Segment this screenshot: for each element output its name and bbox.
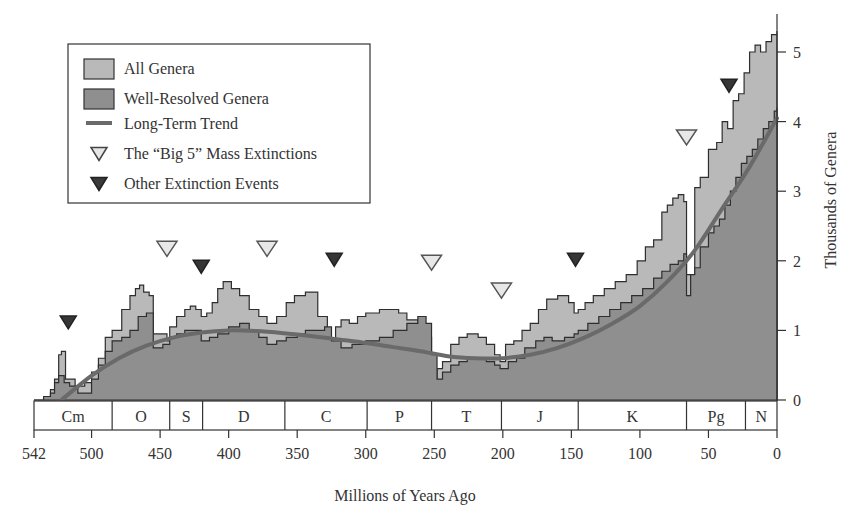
y-tick-label: 3	[793, 183, 801, 200]
period-label: Cm	[62, 408, 86, 425]
x-tick-label: 300	[354, 445, 378, 462]
x-tick-label: 400	[217, 445, 241, 462]
genera-diversity-chart: CmOSDCPTJKPgN542500450400350300250200150…	[0, 0, 866, 521]
period-label: C	[321, 408, 332, 425]
legend-label: Long-Term Trend	[124, 115, 238, 133]
period-label: P	[395, 408, 404, 425]
x-tick-label: 500	[80, 445, 104, 462]
legend-swatch	[84, 59, 114, 79]
big5-extinction-icon	[677, 130, 697, 145]
period-label: N	[755, 408, 767, 425]
y-tick-label: 4	[793, 114, 801, 131]
legend-label: The “Big 5” Mass Extinctions	[124, 145, 317, 163]
x-tick-label: 100	[628, 445, 652, 462]
legend-label: Well-Resolved Genera	[124, 90, 269, 107]
y-tick-label: 1	[793, 322, 801, 339]
other-extinction-icon	[721, 79, 737, 92]
big5-extinction-icon	[422, 255, 442, 270]
legend: All GeneraWell-Resolved GeneraLong-Term …	[68, 44, 370, 203]
y-tick-label: 0	[793, 392, 801, 409]
period-label: O	[135, 408, 147, 425]
period-label: Pg	[708, 408, 725, 426]
y-tick-label: 5	[793, 44, 801, 61]
y-tick-label: 2	[793, 253, 801, 270]
period-label: T	[462, 408, 472, 425]
period-label: S	[182, 408, 191, 425]
x-tick-label: 150	[559, 445, 583, 462]
big5-extinction-icon	[491, 283, 511, 298]
x-tick-label: 450	[148, 445, 172, 462]
x-tick-label: 50	[700, 445, 716, 462]
x-tick-label: 350	[285, 445, 309, 462]
other-extinction-icon	[567, 253, 583, 266]
other-extinction-icon	[326, 253, 342, 266]
big5-extinction-icon	[257, 241, 277, 256]
other-extinction-icon	[193, 260, 209, 273]
x-tick-label: 542	[22, 445, 46, 462]
period-label: J	[537, 408, 543, 425]
big5-extinction-icon	[157, 241, 177, 256]
other-extinction-icon	[60, 316, 76, 329]
legend-swatch	[84, 89, 114, 109]
period-label: K	[627, 408, 639, 425]
legend-label: Other Extinction Events	[124, 175, 279, 192]
period-label: D	[238, 408, 250, 425]
x-tick-label: 200	[491, 445, 515, 462]
x-tick-label: 0	[773, 445, 781, 462]
y-axis-label: Thousands of Genera	[822, 132, 839, 269]
x-axis-label: Millions of Years Ago	[334, 487, 475, 505]
legend-label: All Genera	[124, 60, 195, 77]
x-tick-label: 250	[422, 445, 446, 462]
